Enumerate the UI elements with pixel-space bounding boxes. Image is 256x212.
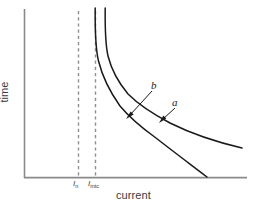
plot-canvas bbox=[0, 0, 256, 212]
tick-label-in: In bbox=[73, 179, 78, 188]
curve-label-a: a bbox=[172, 96, 178, 108]
y-axis-label: time bbox=[0, 81, 10, 102]
curve-label-b: b bbox=[151, 79, 157, 91]
time-current-characteristic-figure: current time In Imtc b a bbox=[0, 0, 256, 212]
tick-label-imtc: Imtc bbox=[88, 179, 99, 188]
leader-line-b bbox=[130, 91, 152, 115]
tick-label-in-subscript: n bbox=[75, 183, 78, 189]
x-axis-label: current bbox=[116, 189, 151, 201]
curve-a bbox=[105, 8, 242, 148]
tick-label-imtc-subscript: mtc bbox=[90, 183, 99, 189]
